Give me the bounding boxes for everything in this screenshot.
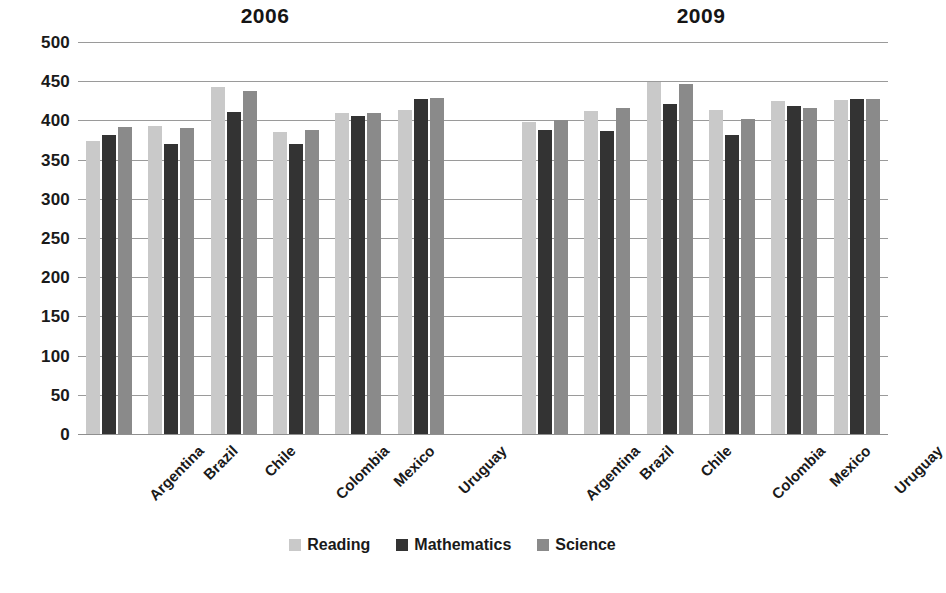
bar-2006-mexico-reading: [335, 113, 349, 434]
bar-2006-brazil-science: [180, 128, 194, 434]
bar-2009-chile-science: [679, 84, 693, 434]
bar-2009-uruguay-science: [866, 99, 880, 434]
x-tick-label-2006-mexico: Mexico: [389, 442, 437, 490]
bar-2009-colombia-mathematics: [725, 135, 739, 434]
bar-2009-brazil-science: [616, 108, 630, 434]
y-tick-label-500: 500: [24, 34, 70, 51]
bar-2006-uruguay-mathematics: [414, 99, 428, 434]
y-tick-label-100: 100: [24, 348, 70, 365]
y-tick-label-250: 250: [24, 230, 70, 247]
country-cluster-argentina: [78, 42, 140, 434]
bar-2009-mexico-mathematics: [787, 106, 801, 434]
year-group-2006: 2006: [78, 42, 452, 434]
bar-2009-brazil-mathematics: [600, 131, 614, 434]
y-tick-label-400: 400: [24, 112, 70, 129]
bar-2006-colombia-mathematics: [289, 144, 303, 434]
bar-2006-uruguay-reading: [398, 110, 412, 434]
y-tick-label-350: 350: [24, 152, 70, 169]
country-cluster-mexico: [327, 42, 389, 434]
legend-item-mathematics[interactable]: Mathematics: [396, 536, 511, 554]
bar-2006-uruguay-science: [430, 98, 444, 434]
country-cluster-mexico: [763, 42, 825, 434]
country-cluster-uruguay: [390, 42, 452, 434]
y-axis: 050100150200250300350400450500: [18, 42, 70, 434]
bar-2006-argentina-reading: [86, 141, 100, 434]
bar-2006-brazil-reading: [148, 126, 162, 434]
bar-2009-colombia-reading: [709, 110, 723, 434]
country-cluster-chile: [639, 42, 701, 434]
bar-2009-mexico-reading: [771, 101, 785, 434]
chart-legend: ReadingMathematicsScience: [0, 536, 905, 554]
y-tick-label-50: 50: [24, 387, 70, 404]
x-tick-label-2009-mexico: Mexico: [825, 442, 873, 490]
legend-swatch-icon-science: [537, 539, 549, 551]
x-tick-label-2006-uruguay: Uruguay: [455, 442, 510, 497]
bar-2009-chile-reading: [647, 82, 661, 434]
x-tick-label-2009-brazil: Brazil: [635, 442, 676, 483]
country-cluster-argentina: [514, 42, 576, 434]
bar-2009-argentina-science: [554, 120, 568, 434]
country-cluster-brazil: [576, 42, 638, 434]
x-tick-label-2009-colombia: Colombia: [768, 442, 828, 502]
x-axis: ArgentinaBrazilChileColombiaMexicoUrugua…: [78, 436, 888, 524]
x-tick-label-2009-argentina: Argentina: [582, 442, 644, 504]
legend-swatch-icon-mathematics: [396, 539, 408, 551]
bar-2009-argentina-reading: [522, 122, 536, 434]
group-title-2006: 2006: [78, 4, 452, 28]
bar-2006-mexico-science: [367, 113, 381, 434]
bar-2006-argentina-science: [118, 127, 132, 434]
x-tick-label-2006-chile: Chile: [261, 442, 299, 480]
legend-label: Reading: [307, 536, 370, 554]
country-cluster-colombia: [701, 42, 763, 434]
bar-2006-chile-reading: [211, 87, 225, 434]
legend-label: Science: [555, 536, 615, 554]
group-title-2009: 2009: [514, 4, 888, 28]
country-cluster-uruguay: [826, 42, 888, 434]
gridline-0: [78, 434, 888, 435]
x-tick-label-2009-uruguay: Uruguay: [891, 442, 946, 497]
plot-area: 20062009: [78, 42, 888, 434]
bar-2006-colombia-science: [305, 130, 319, 434]
bar-2009-argentina-mathematics: [538, 130, 552, 434]
x-tick-label-2009-chile: Chile: [697, 442, 735, 480]
bar-2006-brazil-mathematics: [164, 144, 178, 434]
y-tick-label-0: 0: [24, 426, 70, 443]
x-tick-label-2006-colombia: Colombia: [332, 442, 392, 502]
y-tick-label-200: 200: [24, 269, 70, 286]
x-tick-label-2006-brazil: Brazil: [199, 442, 240, 483]
bar-2009-chile-mathematics: [663, 104, 677, 434]
y-tick-label-150: 150: [24, 308, 70, 325]
country-cluster-chile: [203, 42, 265, 434]
legend-label: Mathematics: [414, 536, 511, 554]
country-cluster-brazil: [140, 42, 202, 434]
bar-2009-uruguay-reading: [834, 100, 848, 434]
y-tick-label-450: 450: [24, 73, 70, 90]
y-tick-label-300: 300: [24, 191, 70, 208]
bar-2006-argentina-mathematics: [102, 135, 116, 434]
bar-2006-chile-mathematics: [227, 112, 241, 434]
legend-swatch-icon-reading: [289, 539, 301, 551]
bar-2006-mexico-mathematics: [351, 116, 365, 434]
year-group-2009: 2009: [514, 42, 888, 434]
country-cluster-colombia: [265, 42, 327, 434]
bar-2009-uruguay-mathematics: [850, 99, 864, 434]
x-tick-label-2006-argentina: Argentina: [146, 442, 208, 504]
bar-2009-mexico-science: [803, 108, 817, 434]
bar-2006-colombia-reading: [273, 132, 287, 434]
bar-2006-chile-science: [243, 91, 257, 434]
legend-item-reading[interactable]: Reading: [289, 536, 370, 554]
bar-2009-brazil-reading: [584, 111, 598, 434]
bar-2009-colombia-science: [741, 119, 755, 434]
legend-item-science[interactable]: Science: [537, 536, 615, 554]
